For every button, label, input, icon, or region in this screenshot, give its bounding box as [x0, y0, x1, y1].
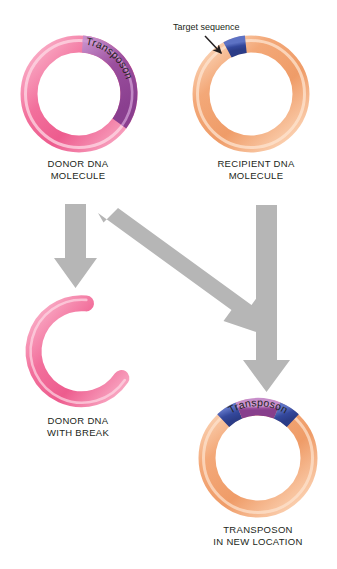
donor-dna-molecule-ring: Transposon: [18, 33, 140, 155]
donor-dna-with-break-label: DONOR DNA WITH BREAK: [8, 415, 148, 438]
donor-dna-with-break-ring: [22, 292, 140, 410]
arrow-recipient-to-result: [243, 205, 290, 392]
dna-backbone: [207, 407, 309, 509]
transposon-in-new-location-label: TRANSPOSON IN NEW LOCATION: [180, 524, 336, 547]
dna-backbone: [201, 44, 301, 144]
target-sequence-segment: [228, 44, 246, 50]
donor-dna-molecule-label: DONOR DNA MOLECULE: [8, 158, 148, 181]
target-sequence-callout-text: Target sequence: [173, 22, 240, 32]
dna-backbone-broken: [34, 303, 122, 399]
figure-canvas: Transposon DONOR DNA MOLECULE: [0, 0, 337, 569]
recipient-dna-molecule-ring: [190, 33, 312, 155]
arrow-donor-to-broken-donor: [54, 204, 97, 288]
recipient-dna-molecule-label: RECIPIENT DNA MOLECULE: [182, 158, 330, 181]
transposon-in-new-location-ring: Transposon: [196, 396, 320, 520]
